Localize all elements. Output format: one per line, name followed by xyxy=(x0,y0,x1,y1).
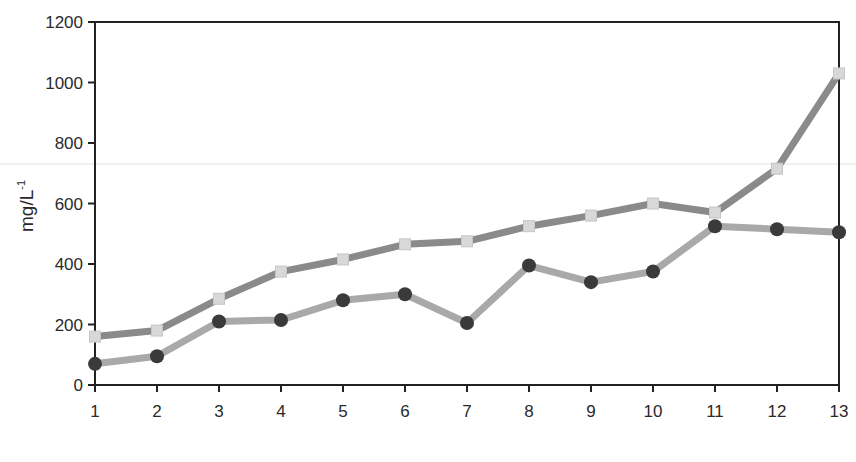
y-tick-label: 400 xyxy=(55,255,83,274)
x-tick-label: 9 xyxy=(586,402,595,421)
data-point-circle xyxy=(646,265,660,279)
x-tick-label: 2 xyxy=(152,402,161,421)
x-tick-label: 11 xyxy=(706,402,724,421)
x-tick-label: 12 xyxy=(768,402,787,421)
data-point-square xyxy=(152,325,163,336)
data-point-circle xyxy=(460,316,474,330)
data-point-square xyxy=(524,221,535,232)
data-point-circle xyxy=(522,259,536,273)
x-tick-label: 1 xyxy=(90,402,99,421)
series-squares xyxy=(90,68,845,342)
x-tick-label: 3 xyxy=(214,402,223,421)
data-point-square xyxy=(90,331,101,342)
y-tick-label: 0 xyxy=(74,376,83,395)
x-tick-label: 10 xyxy=(644,402,663,421)
data-point-square xyxy=(400,239,411,250)
data-point-circle xyxy=(274,313,288,327)
y-axis-title: mg/L-1 xyxy=(15,180,37,232)
x-tick-label: 7 xyxy=(462,402,471,421)
series-squares-line xyxy=(95,73,839,336)
x-tick-label: 4 xyxy=(276,402,285,421)
data-point-circle xyxy=(770,222,784,236)
y-tick-label: 1200 xyxy=(45,13,83,32)
data-point-square xyxy=(710,207,721,218)
data-point-circle xyxy=(708,219,722,233)
data-point-circle xyxy=(398,287,412,301)
data-point-circle xyxy=(336,293,350,307)
series-layer xyxy=(88,68,846,371)
data-point-circle xyxy=(150,349,164,363)
x-tick-label: 5 xyxy=(338,402,347,421)
data-point-circle xyxy=(212,314,226,328)
data-point-square xyxy=(338,254,349,265)
data-point-circle xyxy=(832,225,846,239)
line-chart: 020040060080010001200 12345678910111213 … xyxy=(0,0,856,462)
y-axis: 020040060080010001200 xyxy=(45,13,95,395)
data-point-square xyxy=(276,266,287,277)
x-tick-label: 6 xyxy=(400,402,409,421)
x-tick-label: 8 xyxy=(524,402,533,421)
data-point-circle xyxy=(584,275,598,289)
data-point-square xyxy=(214,293,225,304)
y-tick-label: 800 xyxy=(55,134,83,153)
x-axis: 12345678910111213 xyxy=(90,385,848,421)
y-tick-label: 1000 xyxy=(45,74,83,93)
data-point-square xyxy=(834,68,845,79)
data-point-square xyxy=(586,210,597,221)
y-tick-label: 200 xyxy=(55,316,83,335)
data-point-square xyxy=(772,163,783,174)
x-tick-label: 13 xyxy=(830,402,849,421)
data-point-circle xyxy=(88,357,102,371)
y-tick-label: 600 xyxy=(55,195,83,214)
data-point-square xyxy=(648,198,659,209)
data-point-square xyxy=(462,236,473,247)
